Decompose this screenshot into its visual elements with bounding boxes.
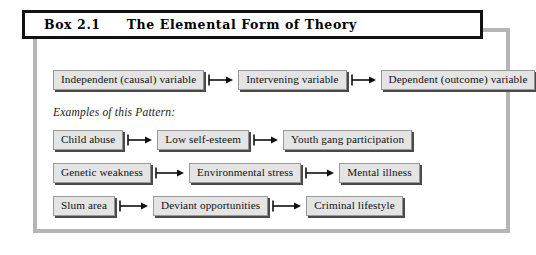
arrow-right-icon (272, 199, 302, 213)
flow-row-primary: Independent (causal) variable Intervenin… (53, 70, 500, 90)
node-child-abuse: Child abuse (53, 130, 123, 150)
node-dependent-variable: Dependent (outcome) variable (381, 70, 536, 90)
node-independent-variable: Independent (causal) variable (53, 70, 204, 90)
node-mental-illness: Mental illness (339, 163, 419, 183)
box-number-label: Box 2.1 (44, 17, 101, 32)
diagram-content-area: Independent (causal) variable Intervenin… (53, 48, 500, 223)
node-youth-gang-participation: Youth gang participation (283, 130, 412, 150)
node-environmental-stress: Environmental stress (189, 163, 301, 183)
arrow-right-icon (208, 73, 234, 87)
arrow-right-icon (253, 133, 279, 147)
figure-outer-frame: Independent (causal) variable Intervenin… (33, 28, 510, 233)
box-title-container: Box 2.1 The Elemental Form of Theory (22, 10, 483, 39)
arrow-right-icon (155, 166, 185, 180)
flow-row-example-3: Slum area Deviant opportunities Criminal… (53, 196, 500, 216)
arrow-right-icon (351, 73, 377, 87)
box-title-inner: Box 2.1 The Elemental Form of Theory (25, 17, 357, 32)
flow-row-example-2: Genetic weakness Environmental stress Me… (53, 163, 500, 183)
node-slum-area: Slum area (53, 196, 115, 216)
flow-row-example-1: Child abuse Low self-esteem Youth gang p… (53, 130, 500, 150)
node-intervening-variable: Intervening variable (238, 70, 346, 90)
node-criminal-lifestyle: Criminal lifestyle (306, 196, 402, 216)
node-genetic-weakness: Genetic weakness (53, 163, 151, 183)
examples-caption: Examples of this Pattern: (53, 106, 500, 118)
box-title-heading: The Elemental Form of Theory (127, 17, 357, 32)
node-low-self-esteem: Low self-esteem (157, 130, 249, 150)
arrow-right-icon (119, 199, 149, 213)
arrow-right-icon (127, 133, 153, 147)
arrow-right-icon (305, 166, 335, 180)
node-deviant-opportunities: Deviant opportunities (153, 196, 268, 216)
